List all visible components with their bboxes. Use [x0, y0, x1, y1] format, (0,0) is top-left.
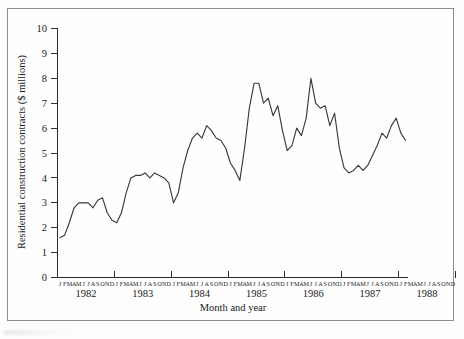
x-year-label: 1987: [360, 288, 381, 299]
y-tick-label-6: 6: [42, 123, 47, 134]
x-month-letter: A: [205, 280, 210, 287]
x-month-letter: A: [91, 280, 96, 287]
series-line-residential-construction: [60, 78, 406, 237]
x-month-letter: J: [314, 280, 317, 287]
x-month-letter: J: [229, 280, 232, 287]
x-tick-group: [58, 271, 456, 278]
x-month-letter: M: [360, 280, 366, 287]
figure-container: 0 1 2 3 4 5 6 7 8 9 10 Residential const…: [0, 0, 464, 339]
x-month-letter: J: [400, 280, 403, 287]
x-month-letter: J: [201, 280, 204, 287]
x-month-letter: A: [261, 280, 266, 287]
y-tick-label-8: 8: [42, 73, 47, 84]
x-month-letter: J: [59, 280, 62, 287]
x-year-label: 1988: [416, 288, 437, 299]
x-month-letter: J: [371, 280, 374, 287]
x-month-letter: J: [172, 280, 175, 287]
x-month-letter: A: [318, 280, 323, 287]
x-month-letter: D: [394, 280, 399, 287]
x-axis-title: Month and year: [200, 302, 267, 313]
x-month-letter: D: [280, 280, 285, 287]
y-axis-title: Residential construction contracts ($ mi…: [16, 54, 28, 249]
y-tick-label-0: 0: [42, 272, 47, 283]
x-month-letter: J: [139, 280, 142, 287]
x-year-label: 1982: [75, 288, 96, 299]
y-tick-label-3: 3: [42, 197, 47, 208]
y-tick-label-1: 1: [42, 247, 47, 258]
y-tick-label-2: 2: [42, 222, 47, 233]
x-month-letter: J: [258, 280, 261, 287]
y-tick-label-9: 9: [42, 48, 47, 59]
x-month-label-group: JFMAMJJASONDJFMAMJJASONDJFMAMJJASONDJFMA…: [59, 280, 456, 287]
x-month-letter: M: [76, 280, 82, 287]
y-tick-label-5: 5: [42, 148, 47, 159]
x-month-letter: M: [303, 280, 309, 287]
y-tick-label-10: 10: [37, 23, 48, 34]
x-month-letter: A: [432, 280, 437, 287]
x-month-letter: D: [223, 280, 228, 287]
x-month-letter: J: [343, 280, 346, 287]
x-year-label-group: 1982198319841985198619871988: [75, 288, 437, 299]
x-month-letter: J: [87, 280, 90, 287]
x-month-letter: J: [310, 280, 313, 287]
x-month-letter: M: [190, 280, 196, 287]
y-tick-label-4: 4: [42, 173, 48, 184]
x-month-letter: A: [148, 280, 153, 287]
x-month-letter: J: [116, 280, 119, 287]
x-year-label: 1984: [189, 288, 211, 299]
x-month-letter: J: [196, 280, 199, 287]
x-month-letter: M: [417, 280, 423, 287]
x-month-letter: J: [253, 280, 256, 287]
x-month-letter: A: [375, 280, 380, 287]
y-tick-label-7: 7: [42, 98, 47, 109]
x-month-letter: J: [428, 280, 431, 287]
x-month-letter: J: [144, 280, 147, 287]
x-year-label: 1983: [132, 288, 153, 299]
x-month-letter: J: [82, 280, 85, 287]
x-month-letter: M: [133, 280, 139, 287]
chart-canvas: 0 1 2 3 4 5 6 7 8 9 10 Residential const…: [0, 0, 464, 339]
x-year-label: 1985: [246, 288, 267, 299]
x-month-letter: D: [337, 280, 342, 287]
scan-artifact: [4, 330, 78, 335]
y-tick-group: [51, 29, 58, 278]
x-month-letter: J: [367, 280, 370, 287]
x-month-letter: D: [167, 280, 172, 287]
x-month-letter: J: [423, 280, 426, 287]
x-month-letter: D: [451, 280, 456, 287]
x-month-letter: M: [247, 280, 253, 287]
x-year-label: 1986: [303, 288, 324, 299]
x-month-letter: J: [286, 280, 289, 287]
x-month-letter: D: [110, 280, 115, 287]
